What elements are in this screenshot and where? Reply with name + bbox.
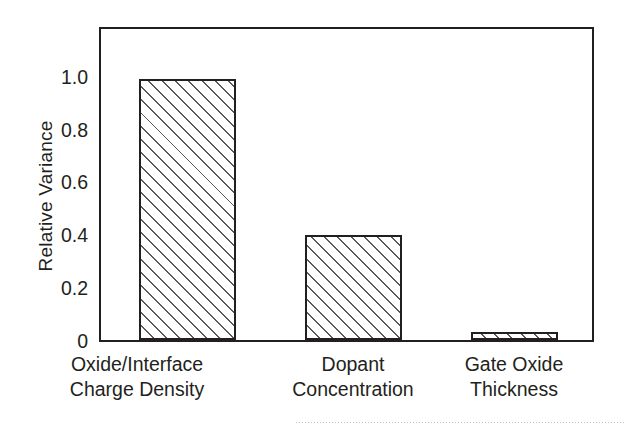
bar-chart-figure: Relative Variance 0 0.2 0.4 0.6 0.8 1.0 … [0, 0, 625, 431]
x-category-label-1: Dopant Concentration [278, 352, 428, 402]
x-category-label-1-line-2: Concentration [278, 377, 428, 402]
x-category-label-0-line-1: Oxide/Interface [62, 352, 212, 377]
bar-oxide-interface-charge-density[interactable] [139, 79, 236, 340]
x-category-label-1-line-1: Dopant [278, 352, 428, 377]
scan-artifact-rule [296, 422, 625, 423]
y-tick-label-0: 0 [8, 332, 88, 352]
x-category-label-2-line-1: Gate Oxide [439, 352, 589, 377]
bar-dopant-concentration[interactable] [305, 235, 402, 340]
bar-gate-oxide-thickness[interactable] [471, 332, 558, 340]
y-tick-label-5: 1.0 [8, 68, 88, 88]
x-category-label-0: Oxide/Interface Charge Density [62, 352, 212, 402]
x-category-label-0-line-2: Charge Density [62, 377, 212, 402]
y-tick-label-3: 0.6 [8, 173, 88, 193]
y-tick-label-2: 0.4 [8, 226, 88, 246]
x-category-label-2: Gate Oxide Thickness [439, 352, 589, 402]
x-category-label-2-line-2: Thickness [439, 377, 589, 402]
y-tick-label-4: 0.8 [8, 121, 88, 141]
plot-area [99, 27, 594, 342]
y-tick-label-1: 0.2 [8, 279, 88, 299]
